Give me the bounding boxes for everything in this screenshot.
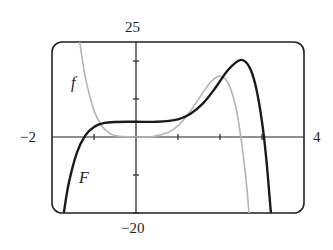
curve-f-label: f xyxy=(71,75,75,91)
x-max-label: 4 xyxy=(313,130,321,145)
curve-F-label: F xyxy=(79,170,89,186)
plot-frame xyxy=(52,42,304,213)
chart-plot xyxy=(0,0,333,250)
y-min-label: −20 xyxy=(121,221,144,236)
x-min-label: −2 xyxy=(20,130,36,145)
y-max-label: 25 xyxy=(125,20,140,35)
curve-f xyxy=(80,42,249,213)
